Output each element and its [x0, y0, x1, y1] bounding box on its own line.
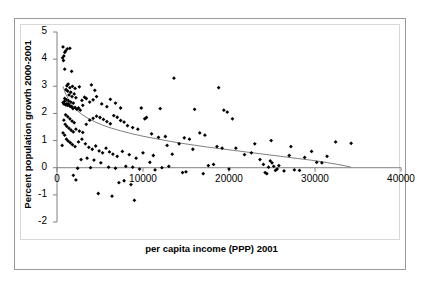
data-point-marker	[277, 164, 281, 168]
data-point-marker	[206, 164, 210, 168]
data-point-marker	[68, 46, 72, 50]
y-tick-label: 2	[27, 106, 47, 117]
data-point-marker	[158, 107, 162, 111]
x-tick-label: 40000	[371, 173, 423, 184]
data-point-marker	[77, 85, 81, 89]
data-point-marker	[70, 69, 74, 73]
data-point-marker	[93, 88, 97, 92]
data-point-marker	[80, 137, 84, 141]
data-point-marker	[63, 67, 67, 71]
data-point-marker	[96, 192, 100, 196]
data-point-marker	[141, 151, 145, 155]
data-point-marker	[72, 92, 76, 96]
data-point-marker	[198, 131, 202, 135]
data-point-marker	[105, 105, 109, 109]
data-point-marker	[234, 146, 238, 150]
data-point-marker	[91, 98, 95, 102]
data-point-marker	[258, 158, 262, 162]
data-point-marker	[101, 151, 105, 155]
data-point-marker	[102, 118, 106, 122]
data-point-marker	[269, 139, 273, 143]
data-point-marker	[334, 140, 338, 144]
data-point-marker	[184, 170, 188, 174]
y-tick-label: -2	[27, 215, 47, 226]
data-point-marker	[114, 101, 118, 105]
data-point-marker	[94, 144, 98, 148]
data-point-marker	[95, 95, 99, 99]
data-point-marker	[193, 107, 197, 111]
data-point-marker	[111, 152, 115, 156]
data-point-marker	[77, 140, 81, 144]
data-point-marker	[88, 100, 92, 104]
data-point-marker	[79, 158, 83, 162]
data-point-marker	[120, 150, 124, 154]
data-point-marker	[126, 124, 130, 128]
data-point-marker	[182, 136, 186, 140]
data-point-marker	[97, 149, 101, 153]
y-axis-ticks	[53, 32, 57, 222]
data-point-marker	[217, 86, 221, 90]
data-point-marker	[172, 76, 176, 80]
data-point-marker	[91, 116, 95, 120]
data-point-marker	[81, 131, 85, 135]
data-point-marker	[243, 153, 247, 157]
data-point-marker	[62, 118, 66, 122]
data-point-marker	[292, 168, 296, 172]
data-point-marker	[150, 132, 154, 136]
data-point-marker	[74, 127, 78, 131]
chart-figure: Percent population growth 2000-2001 per …	[0, 0, 423, 285]
data-point-marker	[325, 154, 329, 158]
data-point-marker	[105, 120, 109, 124]
data-point-marker	[127, 153, 131, 157]
data-point-marker	[165, 144, 169, 148]
data-point-marker	[77, 129, 81, 133]
data-point-marker	[231, 117, 235, 121]
data-point-marker	[89, 166, 93, 170]
data-point-marker	[85, 156, 89, 160]
data-point-marker	[90, 147, 94, 151]
data-point-marker	[61, 45, 65, 49]
data-point-marker	[76, 166, 80, 170]
data-point-marker	[222, 108, 226, 112]
data-point-marker	[131, 126, 135, 130]
x-tick-label: 20000	[199, 173, 259, 184]
data-point-marker	[119, 106, 123, 110]
data-point-marker	[112, 114, 116, 118]
data-point-marker	[160, 166, 164, 170]
data-point-marker	[131, 165, 135, 169]
trendline	[63, 86, 351, 167]
data-point-marker	[114, 166, 118, 170]
data-point-marker	[87, 145, 91, 149]
data-point-marker	[203, 133, 207, 137]
data-point-marker	[90, 83, 94, 87]
data-point-marker	[139, 106, 143, 110]
data-point-marker	[110, 194, 114, 198]
data-point-marker	[119, 119, 123, 123]
data-point-marker	[107, 165, 111, 169]
data-point-marker	[99, 161, 103, 165]
data-point-marker	[148, 160, 152, 164]
data-point-marker	[163, 135, 167, 139]
data-point-marker	[80, 99, 84, 103]
data-point-marker	[70, 95, 74, 99]
x-axis-title: per capita income (PPP) 2001	[0, 243, 423, 254]
data-point-marker	[73, 87, 77, 91]
x-tick-label: 0	[27, 173, 87, 184]
data-point-marker	[95, 114, 99, 118]
data-point-marker	[267, 165, 271, 169]
data-point-marker	[92, 158, 96, 162]
data-point-marker	[100, 102, 104, 106]
data-point-marker	[108, 97, 112, 101]
data-point-marker	[108, 122, 112, 126]
data-point-marker	[310, 150, 314, 154]
data-point-marker	[108, 150, 112, 154]
data-point-marker	[122, 120, 126, 124]
data-point-marker	[170, 152, 174, 156]
data-point-marker	[262, 163, 266, 167]
data-point-marker	[133, 198, 137, 202]
data-point-marker	[60, 144, 64, 148]
y-tick-label: 0	[27, 161, 47, 172]
data-point-marker	[225, 110, 229, 114]
data-point-marker	[115, 154, 119, 158]
data-point-marker	[136, 127, 140, 131]
